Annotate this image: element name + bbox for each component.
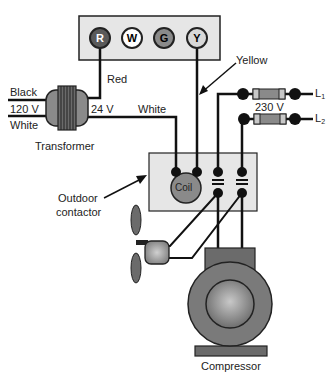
label-coil: Coil <box>175 183 192 193</box>
fuse-l2 <box>254 114 286 124</box>
label-24v: 24 V <box>91 104 114 115</box>
label-transformer: Transformer <box>35 141 95 152</box>
terminal-r: R <box>89 27 111 49</box>
terminal-g: G <box>153 27 175 49</box>
label-outdoor: Outdoor <box>58 193 98 204</box>
l2-subscript: 2 <box>321 118 325 125</box>
fan-motor-icon <box>131 205 169 283</box>
label-l1: L1 <box>315 88 325 100</box>
contactor-arrowhead <box>136 175 147 184</box>
label-red: Red <box>107 74 127 85</box>
terminal-w: W <box>121 27 143 49</box>
label-120v: 120 V <box>10 104 39 115</box>
terminal-y: Y <box>186 27 208 49</box>
label-black: Black <box>10 87 37 98</box>
label-yellow: Yellow <box>236 55 267 66</box>
label-compressor: Compressor <box>201 361 261 372</box>
label-white-in: White <box>10 120 38 131</box>
compressor-icon <box>188 248 272 356</box>
yellow-pointer <box>201 63 236 93</box>
l1-subscript: 1 <box>321 93 325 100</box>
label-white-out: White <box>138 104 166 115</box>
label-contactor: contactor <box>56 207 101 218</box>
fuse-l1 <box>253 89 285 99</box>
label-l2: L2 <box>315 113 325 125</box>
label-230v: 230 V <box>255 102 284 113</box>
wiring-diagram <box>0 0 331 381</box>
contactor-pointer <box>104 178 143 198</box>
transformer-icon <box>46 86 88 130</box>
yellow-arrowhead <box>199 85 208 95</box>
